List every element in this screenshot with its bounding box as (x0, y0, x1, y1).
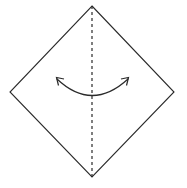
origami-fold-diagram (0, 0, 187, 188)
figure-canvas (0, 0, 187, 188)
